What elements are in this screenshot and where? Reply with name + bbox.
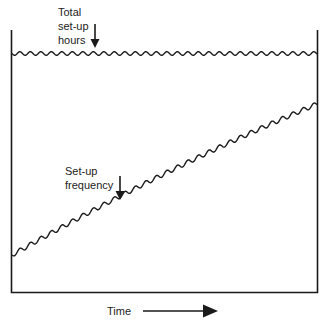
container-outline [12, 30, 318, 293]
label-line: frequency [65, 178, 113, 192]
total-setup-hours-line [12, 52, 317, 56]
diagram-canvas [0, 0, 327, 325]
setup-frequency-label: Set-up frequency [65, 164, 113, 192]
setup-frequency-line [12, 103, 317, 256]
label-line: Total [58, 5, 89, 19]
total-setup-hours-label: Total set-up hours [58, 5, 89, 47]
total-setup-hours-arrow [91, 24, 100, 48]
time-arrow [143, 305, 218, 318]
setup-frequency-arrow [116, 176, 125, 200]
label-line: set-up [58, 19, 89, 33]
label-line: Set-up [65, 164, 113, 178]
x-axis-label: Time [107, 304, 131, 318]
label-line: hours [58, 33, 89, 47]
